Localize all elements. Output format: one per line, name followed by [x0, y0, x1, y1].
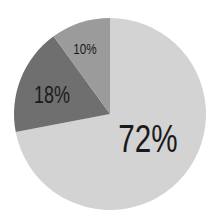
pie-slices	[14, 18, 206, 210]
slice-label-72: 72%	[118, 117, 177, 159]
slice-label-10: 10%	[73, 41, 96, 58]
pie-chart: 72% 18% 10%	[0, 0, 215, 220]
slice-label-18: 18%	[34, 82, 70, 108]
